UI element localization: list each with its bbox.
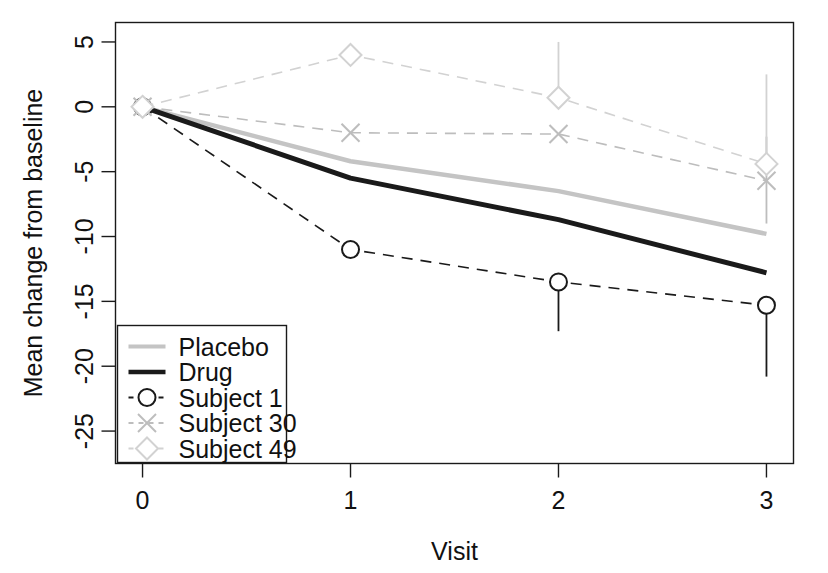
x-tick-label: 2 (552, 486, 566, 514)
data-point-circle (139, 389, 156, 406)
diamond-marker (755, 153, 777, 175)
diamond-marker (340, 44, 362, 66)
legend-layer: PlaceboDrugSubject 1Subject 30Subject 49 (118, 326, 297, 463)
x-tick-label: 0 (136, 486, 150, 514)
chart-figure: 50-5-10-15-20-250123VisitMean change fro… (0, 0, 828, 573)
data-point-diamond (755, 153, 777, 175)
series-polyline (143, 107, 767, 181)
legend-item-label: Drug (179, 358, 233, 386)
circle-marker (342, 241, 359, 258)
series-polyline (143, 55, 767, 164)
x-axis-title: Visit (431, 537, 478, 565)
y-tick-label: -20 (71, 348, 99, 384)
legend-item-label: Subject 30 (179, 409, 297, 437)
series-placebo (143, 107, 767, 234)
data-point-cross (549, 125, 567, 143)
y-tick-label: -15 (71, 283, 99, 319)
y-tick-label: 5 (71, 35, 99, 49)
data-point-circle (758, 297, 775, 314)
circle-marker (139, 389, 156, 406)
data-point-circle (342, 241, 359, 258)
y-axis-title: Mean change from baseline (19, 89, 47, 398)
series-subject-30 (134, 98, 776, 224)
y-tick-label: -25 (71, 413, 99, 449)
line-chart-canvas: 50-5-10-15-20-250123VisitMean change fro… (0, 0, 828, 573)
series-subject-49 (132, 42, 778, 175)
diamond-marker (547, 87, 569, 109)
y-tick-label: -5 (71, 161, 99, 183)
y-tick-label: 0 (71, 100, 99, 114)
y-tick-label: -10 (71, 218, 99, 254)
data-point-diamond (547, 87, 569, 109)
data-point-circle (550, 273, 567, 290)
circle-marker (758, 297, 775, 314)
series-polyline (143, 107, 767, 234)
legend-item-label: Placebo (179, 333, 269, 361)
x-tick-label: 1 (344, 486, 358, 514)
circle-marker (550, 273, 567, 290)
x-tick-label: 3 (760, 486, 774, 514)
data-point-diamond (340, 44, 362, 66)
legend-item-label: Subject 1 (179, 384, 283, 412)
legend-item-label: Subject 49 (179, 435, 297, 463)
